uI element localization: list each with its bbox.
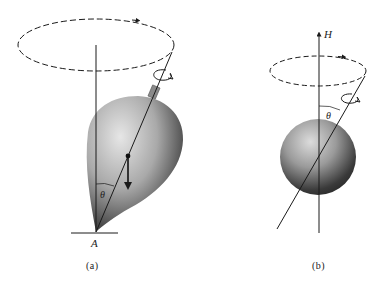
theta-label-b: θ <box>326 110 331 121</box>
theta-label-a: θ <box>100 189 105 200</box>
field-label-h: H <box>324 29 332 40</box>
caption-b: (b) <box>312 261 325 271</box>
spinning-top-body <box>87 96 183 232</box>
panel-b: θ <box>270 34 366 233</box>
top-knob <box>148 85 160 99</box>
pivot-label-a: A <box>91 238 98 249</box>
caption-a: (a) <box>86 261 99 271</box>
precession-circle-b <box>270 56 366 86</box>
panel-a: θ <box>18 19 183 233</box>
precession-direction-arrow-a <box>132 20 138 21</box>
precession-diagram: θ θ <box>0 0 377 284</box>
precession-direction-arrow-b <box>338 57 344 58</box>
